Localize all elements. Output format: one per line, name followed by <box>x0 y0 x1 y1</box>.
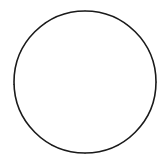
sector-diagram-canvas <box>0 0 166 162</box>
sector-diagram-figure <box>0 0 166 162</box>
circle-outline <box>14 11 156 153</box>
